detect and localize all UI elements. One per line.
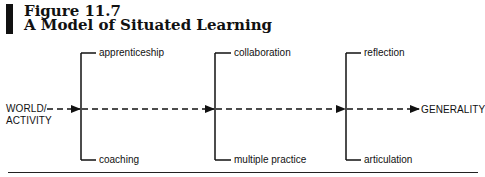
start-label-line1: WORLD/	[6, 103, 47, 114]
end-label: GENERALITY	[421, 104, 485, 115]
stage-1-bottom-label: coaching	[99, 154, 139, 165]
stage-3-bottom-label: articulation	[364, 154, 412, 165]
stage-2-bottom-label: multiple practice	[234, 154, 307, 165]
stage-bracket-3	[346, 53, 361, 160]
stage-bracket-1	[81, 53, 96, 160]
situated-learning-diagram: WORLD/ ACTIVITY GENERALITY apprenticeshi…	[0, 0, 485, 177]
stage-3-top-label: reflection	[364, 47, 405, 58]
stage-1-top-label: apprenticeship	[99, 47, 164, 58]
bottom-rule	[8, 172, 478, 173]
stage-bracket-2	[215, 53, 231, 160]
stage-2-top-label: collaboration	[234, 47, 291, 58]
start-label-line2: ACTIVITY	[6, 115, 52, 126]
